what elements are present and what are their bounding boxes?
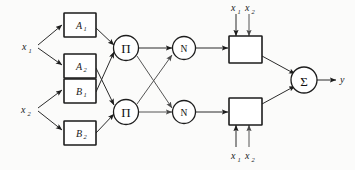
consequent-bottom-input-x1-subscript: 1	[238, 156, 241, 163]
normalization-node-bottom-symbol: N	[181, 108, 188, 118]
product-node-bottom[interactable]: Π	[114, 100, 139, 125]
consequent-top-input-x2-base: x	[244, 2, 250, 13]
normalization-node-bottom[interactable]: N	[173, 101, 196, 124]
consequent-bottom-input-label-x1: x 1	[230, 150, 241, 163]
consequent-bottom-input-x2-base: x	[244, 150, 250, 161]
anfis-diagram-canvas: A 1 A 2 B 1 B 2 Π Π N	[0, 0, 355, 170]
input-fanout-edges	[38, 25, 62, 130]
membership-box-B1-label: B	[76, 86, 82, 97]
membership-box-A1-label: A	[75, 20, 83, 31]
product-to-norm-edges	[137, 48, 172, 112]
consequent-box-bottom-shape[interactable]	[229, 98, 262, 125]
edge-x2-to-B1	[38, 90, 62, 108]
consequent-to-sum-edges	[262, 56, 295, 104]
membership-box-A2-label: A	[75, 61, 83, 72]
edge-prod-top-to-norm-bottom	[137, 56, 172, 108]
consequent-top-input-label-x1: x 1	[230, 2, 241, 15]
consequent-top-input-x1-subscript: 1	[238, 8, 241, 15]
input-label-x1-subscript: 1	[29, 47, 32, 54]
summation-node[interactable]: Σ	[291, 67, 317, 93]
membership-box-A1-subscript: 1	[84, 25, 87, 32]
product-node-top-symbol: Π	[121, 41, 130, 56]
anfis-diagram-svg: A 1 A 2 B 1 B 2 Π Π N	[0, 0, 355, 170]
norm-to-consequent-edges	[196, 48, 228, 112]
output-label-y-base: y	[339, 74, 345, 85]
input-label-x2: x 2	[20, 104, 32, 117]
product-node-bottom-symbol: Π	[121, 105, 130, 120]
membership-box-B2[interactable]: B 2	[64, 121, 96, 145]
edge-A1-to-prod-top	[96, 28, 114, 45]
edge-x2-to-B2	[38, 111, 62, 130]
consequent-bottom-input-x1-base: x	[230, 150, 236, 161]
membership-box-B2-label: B	[76, 128, 82, 139]
product-node-top[interactable]: Π	[114, 36, 139, 61]
consequent-top-input-x1-base: x	[230, 2, 236, 13]
edge-x1-to-A1	[38, 25, 62, 45]
consequent-box-top-shape[interactable]	[229, 36, 262, 63]
input-label-x1-base: x	[21, 41, 27, 52]
membership-box-B1[interactable]: B 1	[64, 79, 96, 103]
input-label-x1: x 1	[21, 41, 32, 54]
edge-B2-to-prod-bottom	[96, 114, 114, 133]
consequent-top-input-label-x2: x 2	[244, 2, 256, 15]
output-label-y: y	[339, 74, 345, 85]
edge-x1-to-A2	[38, 48, 62, 65]
normalization-node-top[interactable]: N	[173, 37, 196, 60]
consequent-box-top[interactable]	[229, 36, 262, 63]
consequent-top-input-x2-subscript: 2	[252, 8, 256, 15]
consequent-box-bottom[interactable]	[229, 98, 262, 125]
consequent-bottom-input-label-x2: x 2	[244, 150, 256, 163]
summation-node-symbol: Σ	[300, 74, 308, 89]
edge-conseq-bottom-to-sum	[262, 86, 295, 104]
membership-box-B1-subscript: 1	[84, 91, 87, 98]
edge-prod-bottom-to-norm-top	[137, 55, 172, 104]
input-label-x2-subscript: 2	[28, 110, 32, 117]
membership-box-A2[interactable]: A 2	[64, 54, 96, 78]
normalization-node-top-symbol: N	[181, 44, 188, 54]
consequent-bottom-input-x2-subscript: 2	[252, 156, 256, 163]
input-label-x2-base: x	[20, 104, 26, 115]
edge-conseq-top-to-sum	[262, 56, 295, 74]
consequent-input-edges	[236, 14, 249, 147]
membership-box-A1[interactable]: A 1	[64, 13, 96, 37]
membership-to-product-edges	[96, 28, 114, 133]
